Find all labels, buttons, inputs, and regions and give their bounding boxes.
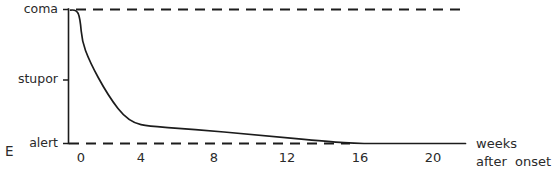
x-tick-label-0: 0 [67, 151, 95, 164]
y-tick-label-alert: alert [6, 137, 58, 150]
x-tick-label-12: 12 [273, 151, 301, 164]
x-tick-label-20: 20 [419, 151, 447, 164]
consciousness-recovery-figure: coma stupor alert E 0 4 8 12 16 20 weeks… [0, 0, 556, 176]
y-tick-label-coma: coma [6, 3, 58, 16]
y-tick-label-stupor: stupor [6, 73, 58, 86]
corner-label-e: E [5, 145, 14, 159]
x-axis-title-line1: weeks [476, 137, 517, 150]
consciousness-level-curve [71, 10, 466, 144]
x-tick-label-8: 8 [200, 151, 228, 164]
x-tick-label-16: 16 [346, 151, 374, 164]
x-tick-label-4: 4 [127, 151, 155, 164]
x-axis-title-line2: after onset [476, 155, 551, 168]
